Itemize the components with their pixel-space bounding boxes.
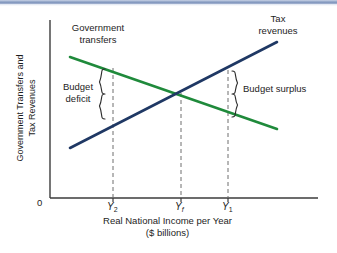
government-transfers-label: Government transfers bbox=[58, 22, 138, 46]
tick-label-y1: Y1 bbox=[222, 201, 233, 212]
y-axis-title-line1: Government Transfers and bbox=[15, 54, 25, 161]
budget-surplus-label: Budget surplus bbox=[243, 83, 306, 95]
tick-label-y2-base: Y bbox=[107, 201, 114, 212]
tick-label-y1-sub: 1 bbox=[229, 206, 233, 213]
tax-revenues-label-line2: revenues bbox=[243, 25, 313, 37]
tick-label-yf-sub: f bbox=[182, 206, 184, 213]
y-axis-title-line2: Tax Revenues bbox=[26, 54, 38, 161]
y-axis-title: Government Transfers and Tax Revenues bbox=[6, 28, 46, 188]
x-axis-title-line2: ($ billions) bbox=[50, 227, 285, 239]
tick-label-yf-base: Y bbox=[175, 201, 182, 212]
x-axis-title-line1: Real National Income per Year bbox=[50, 215, 285, 227]
x-axis-title: Real National Income per Year ($ billion… bbox=[50, 215, 285, 239]
government-transfers-label-line2: transfers bbox=[58, 34, 138, 46]
government-transfers-label-line1: Government bbox=[58, 22, 138, 34]
tick-label-yf: Yf bbox=[175, 201, 184, 212]
tax-revenues-label-line1: Tax bbox=[243, 13, 313, 25]
budget-deficit-label-line2: deficit bbox=[57, 93, 99, 105]
tax-revenues-line bbox=[70, 42, 277, 148]
budget-deficit-surplus-diagram: Government Transfers and Tax Revenues Re… bbox=[0, 0, 337, 253]
budget-deficit-label-line1: Budget bbox=[57, 81, 99, 93]
origin-label: 0 bbox=[37, 197, 42, 208]
tick-label-y2: Y2 bbox=[107, 201, 118, 212]
tax-revenues-label: Tax revenues bbox=[243, 13, 313, 37]
tick-label-y2-sub: 2 bbox=[114, 206, 118, 213]
budget-deficit-label: Budget deficit bbox=[57, 81, 99, 105]
budget-deficit-brace bbox=[100, 69, 106, 119]
tick-label-y1-base: Y bbox=[222, 201, 229, 212]
budget-surplus-brace bbox=[232, 71, 238, 117]
